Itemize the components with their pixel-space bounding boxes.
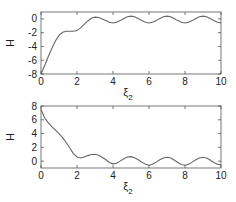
y-tick-label: 8 [31, 101, 37, 112]
x-axis-label-subscript: 2 [128, 187, 133, 196]
y-tick-label: 0 [31, 13, 37, 24]
y-tick-label: 4 [31, 128, 37, 139]
y-axis-label: H [4, 39, 16, 47]
x-tick-label: 6 [146, 76, 152, 87]
x-tick-label: 2 [74, 170, 80, 181]
x-tick-label: 8 [182, 76, 188, 87]
x-tick-label: 10 [215, 170, 227, 181]
y-tick-label: 2 [31, 142, 37, 153]
x-axis-label: ξ2 [123, 86, 133, 102]
y-tick-label: -8 [28, 69, 37, 80]
y-tick-label: -2 [28, 27, 37, 38]
y-tick-label: 6 [31, 114, 37, 125]
x-tick-label: 4 [110, 170, 116, 181]
bottom-panel: 024681002468Hξ2 [4, 101, 227, 197]
x-tick-label: 0 [38, 76, 44, 87]
x-tick-label: 6 [146, 170, 152, 181]
y-tick-label: 0 [31, 156, 37, 167]
axes-frame [41, 106, 221, 168]
x-tick-label: 10 [215, 76, 227, 87]
series-line-H [41, 16, 221, 74]
x-axis-label: ξ2 [123, 180, 133, 196]
top-panel: 0246810-8-6-4-20Hξ2 [4, 12, 227, 102]
axes-frame [41, 12, 221, 74]
x-tick-label: 2 [74, 76, 80, 87]
y-tick-label: -6 [28, 55, 37, 66]
x-axis-label-subscript: 2 [128, 93, 133, 102]
y-tick-label: -4 [28, 41, 37, 52]
series-line-H [41, 109, 221, 165]
x-tick-label: 0 [38, 170, 44, 181]
y-axis-label: H [4, 133, 16, 141]
x-tick-label: 4 [110, 76, 116, 87]
x-tick-label: 8 [182, 170, 188, 181]
figure: 0246810-8-6-4-20Hξ2 024681002468Hξ2 [0, 0, 236, 202]
